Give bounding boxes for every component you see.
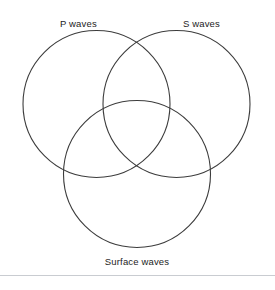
venn-diagram-canvas [0,0,275,290]
footer-divider [0,275,275,276]
surface-waves-circle [64,101,211,248]
venn-diagram-figure: P waves S waves Surface waves [0,0,275,290]
s-waves-circle [103,31,250,178]
p-waves-circle [23,31,170,178]
p-waves-label: P waves [60,18,97,29]
s-waves-label: S waves [183,18,220,29]
surface-waves-label: Surface waves [0,256,275,267]
